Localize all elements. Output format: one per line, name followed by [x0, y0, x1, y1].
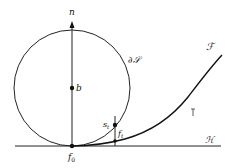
circle-point-label: st — [103, 120, 110, 130]
curve-point-label: ft — [117, 129, 124, 139]
curve-f — [72, 55, 222, 146]
center-label: b — [76, 83, 82, 93]
origin-point — [70, 144, 74, 148]
circle-point-st — [113, 123, 117, 127]
normal-label: n — [69, 7, 75, 17]
center-point — [70, 86, 74, 90]
plane-label: ℋ — [205, 135, 216, 145]
curve-point-ft — [113, 139, 117, 143]
normal-arrowhead-icon — [70, 21, 75, 28]
boundary-label: ∂𝒮 — [128, 55, 143, 65]
origin-label: f0 — [67, 152, 75, 163]
diagram-canvas: n b ∂𝒮 ℱ ℋ f0 st ft — [0, 0, 233, 168]
curve-label: ℱ — [206, 41, 216, 52]
